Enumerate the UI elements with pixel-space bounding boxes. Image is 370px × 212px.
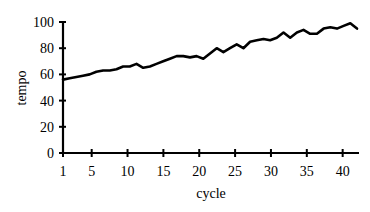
tempo-series-line	[63, 23, 357, 79]
y-tick-label: 0	[47, 146, 54, 161]
x-tick-label: 15	[156, 164, 170, 179]
x-tick-label: 5	[88, 164, 95, 179]
x-tick-label: 10	[121, 164, 135, 179]
x-tick-label: 40	[336, 164, 350, 179]
x-axis: 1510152025303540	[60, 149, 360, 179]
x-axis-label: cycle	[196, 186, 226, 201]
y-axis: 020406080100	[33, 15, 66, 161]
x-tick-label: 35	[300, 164, 314, 179]
x-tick-label: 30	[264, 164, 278, 179]
x-tick-label: 20	[192, 164, 206, 179]
line-chart: 020406080100 1510152025303540 tempo cycl…	[0, 0, 370, 212]
x-tick-label: 25	[228, 164, 242, 179]
y-tick-label: 40	[40, 94, 54, 109]
y-tick-label: 20	[40, 120, 54, 135]
y-tick-label: 80	[40, 41, 54, 56]
x-tick-label: 1	[60, 164, 67, 179]
y-tick-label: 60	[40, 67, 54, 82]
y-axis-label: tempo	[14, 71, 29, 106]
y-tick-label: 100	[33, 15, 54, 30]
